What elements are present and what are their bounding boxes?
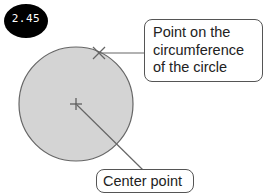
center-point-label: Center point xyxy=(103,173,182,189)
circumference-callout: Point on the circumference of the circle xyxy=(144,19,263,82)
circumference-callout-line-1: Point on the xyxy=(153,24,262,42)
value-badge: 2.45 xyxy=(4,12,48,25)
circumference-callout-line-3: of the circle xyxy=(153,59,262,77)
center-point-callout: Center point xyxy=(96,169,194,193)
circumference-callout-line-2: circumference xyxy=(153,42,262,60)
